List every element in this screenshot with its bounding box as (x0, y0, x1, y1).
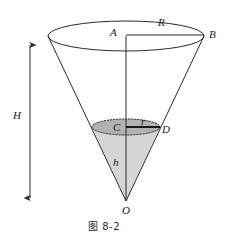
label-D: D (162, 124, 170, 135)
label-H: H (13, 110, 21, 121)
figure-caption: 图 8-2 (88, 222, 120, 232)
label-A: A (110, 27, 117, 38)
label-C: C (113, 122, 120, 133)
figure-container: H A R B C r D h O 图 8-2 (0, 0, 227, 243)
label-O: O (122, 205, 130, 216)
label-B: B (209, 29, 216, 40)
label-R: R (158, 17, 165, 28)
label-h: h (113, 157, 119, 168)
label-r: r (141, 116, 145, 127)
